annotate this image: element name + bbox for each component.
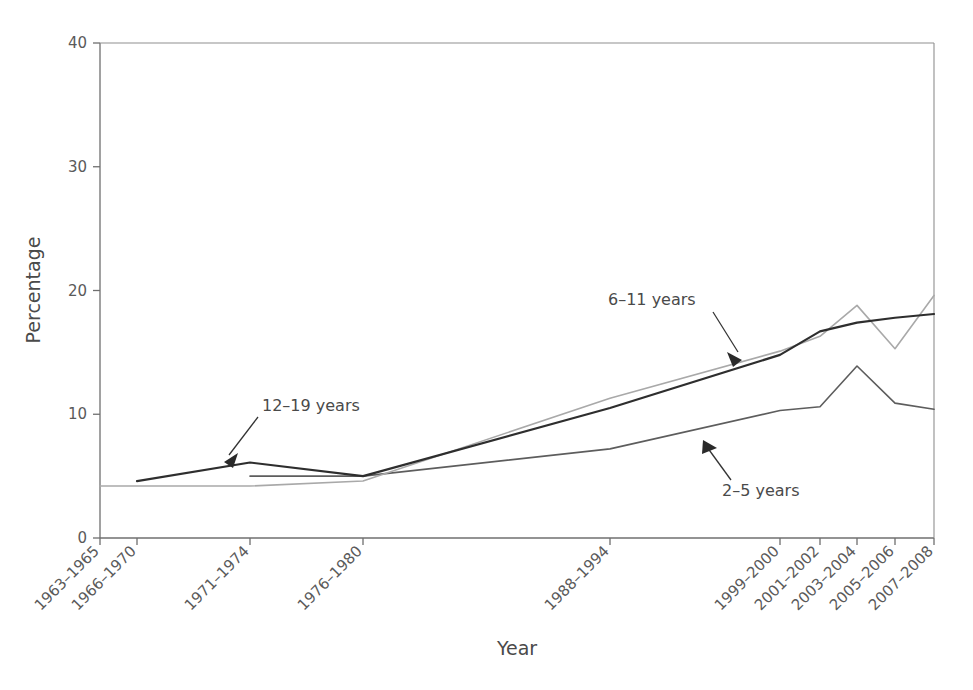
annotation-12-19-years-leader: [229, 417, 258, 455]
x-tick-label: 1971–1974: [181, 542, 253, 614]
y-tick-group: 010203040: [68, 34, 100, 547]
series-line-2-5-years: [250, 366, 934, 476]
annotation-6-11-years: 6–11 years: [608, 290, 742, 367]
axes-group: [100, 43, 934, 538]
y-axis-title: Percentage: [22, 237, 44, 344]
y-tick-label: 10: [68, 405, 87, 423]
x-tick-label-group: 1963–19651966–19701971–19741976–19801988…: [31, 542, 937, 614]
annotation-6-11-years-label: 6–11 years: [608, 290, 696, 309]
annotation-12-19-years-label: 12–19 years: [262, 396, 360, 415]
annotation-2-5-years-leader: [707, 447, 731, 480]
annotation-2-5-years-label: 2–5 years: [722, 481, 799, 500]
line-chart: 010203040 1963–19651966–19701971–1974197…: [0, 0, 973, 690]
y-tick-label: 40: [68, 34, 87, 52]
y-tick-label: 20: [68, 282, 87, 300]
y-tick-label: 30: [68, 158, 87, 176]
annotation-6-11-years-leader: [713, 312, 738, 352]
x-tick-label: 1988–1994: [541, 542, 613, 614]
series-line-6-11-years: [100, 295, 934, 486]
annotation-2-5-years-arrowhead: [702, 440, 717, 454]
annotation-12-19-years: 12–19 years: [224, 396, 360, 468]
annotation-2-5-years: 2–5 years: [702, 440, 799, 500]
x-tick-label: 1976–1980: [294, 542, 366, 614]
series-group: [100, 295, 934, 486]
x-axis-title: Year: [496, 637, 537, 659]
chart-container: 010203040 1963–19651966–19701971–1974197…: [0, 0, 973, 690]
y-tick-label: 0: [77, 529, 87, 547]
